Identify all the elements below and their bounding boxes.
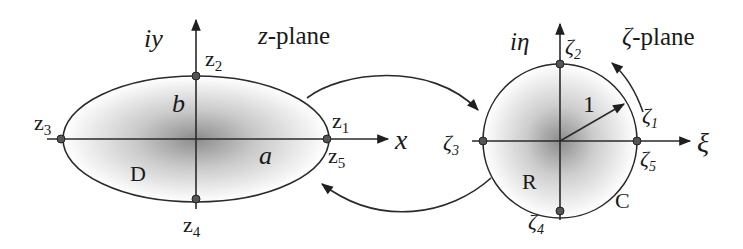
label-zeta5: ζ5 [640,146,656,174]
point-z2 [192,72,200,80]
label-z1: z1 [332,108,349,136]
label-zeta1: ζ1 [642,103,658,131]
label-zeta3: ζ3 [443,130,459,158]
zeta-plane: iη ξ ζ-plane ζ2 ζ3 ζ1 ζ5 ζ4 1 R C [443,23,709,237]
point-zeta2 [556,60,564,68]
label-z5: z5 [328,143,345,171]
label-z2: z2 [205,46,222,74]
semi-major-label-a: a [259,141,272,170]
mapping-arrow-zeta-to-z [322,178,491,212]
point-z1-z5 [323,135,331,143]
point-zeta1-zeta5 [633,137,641,145]
conformal-mapping-diagram: iy x z-plane z2 z3 z1 z5 z4 b a D iη ξ ζ… [0,0,743,249]
i-eta-axis-label: iη [510,28,529,55]
point-z4 [192,195,200,203]
xi-axis-label: ξ [697,127,709,158]
label-z4: z4 [183,212,201,240]
mapping-arrow-z-to-zeta [307,76,478,111]
label-z3: z3 [34,110,51,138]
contour-label-C: C [615,188,630,213]
z-plane: iy x z-plane z2 z3 z1 z5 z4 b a D [34,20,408,240]
point-zeta4 [556,207,564,215]
x-axis-label: x [394,124,408,155]
z-plane-title: z-plane [257,22,330,49]
region-label-R: R [522,169,537,194]
semi-minor-label-b: b [172,89,185,118]
label-zeta2: ζ2 [565,34,581,62]
point-zeta3 [479,137,487,145]
zeta-plane-title: ζ-plane [622,23,695,50]
radius-label-1: 1 [583,91,595,117]
iy-axis-label: iy [144,24,163,53]
point-z3 [57,135,65,143]
region-label-D: D [130,161,146,186]
